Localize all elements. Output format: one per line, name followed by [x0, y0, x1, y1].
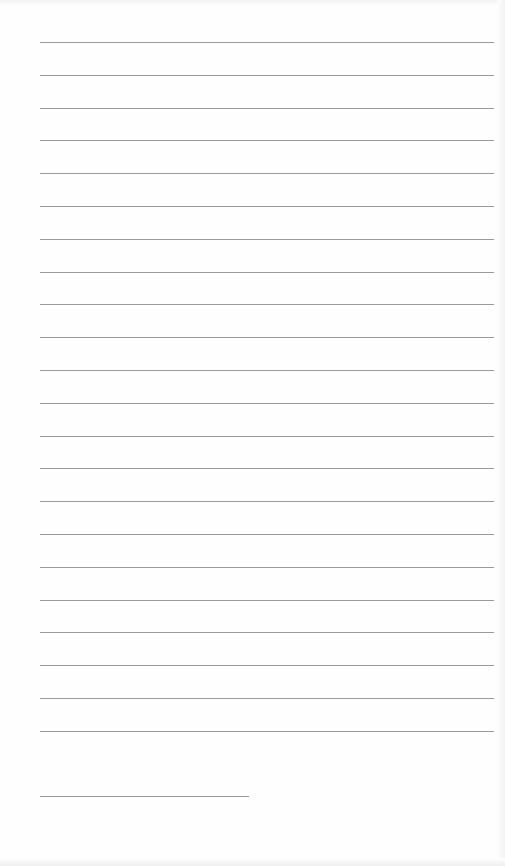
ruled-line: [40, 272, 494, 273]
lined-paper-page: [0, 0, 505, 866]
ruled-line: [40, 206, 494, 207]
ruled-line: [40, 632, 494, 633]
ruled-line: [40, 75, 494, 76]
ruled-line: [40, 501, 494, 502]
ruled-line: [40, 436, 494, 437]
ruled-line: [40, 698, 494, 699]
ruled-line: [40, 600, 494, 601]
ruled-line: [40, 370, 494, 371]
signature-line: [40, 796, 249, 797]
ruled-line: [40, 140, 494, 141]
ruled-line: [40, 239, 494, 240]
ruled-line: [40, 42, 494, 43]
ruled-line: [40, 403, 494, 404]
ruled-line: [40, 665, 494, 666]
ruled-line: [40, 731, 494, 732]
ruled-line: [40, 337, 494, 338]
ruled-line: [40, 468, 494, 469]
ruled-line: [40, 173, 494, 174]
ruled-line: [40, 304, 494, 305]
ruled-line: [40, 567, 494, 568]
page-edge-bottom: [0, 858, 505, 866]
ruled-line: [40, 534, 494, 535]
ruled-line: [40, 108, 494, 109]
page-edge-top: [0, 0, 505, 6]
page-edge-right: [497, 0, 505, 866]
